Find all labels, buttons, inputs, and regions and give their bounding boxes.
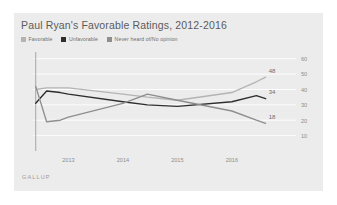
x-axis-tick-label: 2015 <box>171 157 183 163</box>
y-axis-tick-label: 60 <box>301 56 307 62</box>
series-end-value-label: 18 <box>269 114 276 120</box>
x-axis-tick-label: 2013 <box>62 157 74 163</box>
legend-item-unfavorable[interactable]: Unfavorable <box>61 36 98 42</box>
chart-title: Paul Ryan's Favorable Ratings, 2012-2016 <box>21 19 227 31</box>
legend-item-never-heard-of[interactable]: Never heard of/No opinion <box>107 36 178 42</box>
y-axis-tick-label: 30 <box>301 102 307 108</box>
page-top-text-fragment <box>14 1 164 10</box>
x-axis-tick-label: 2016 <box>226 157 238 163</box>
legend-item-favorable[interactable]: Favorable <box>21 36 52 42</box>
y-axis-tick-label: 50 <box>301 71 307 77</box>
legend-swatch-icon <box>61 37 66 42</box>
y-axis-tick-label: 20 <box>301 118 307 124</box>
series-line <box>36 77 266 100</box>
chart-source-attribution: GALLUP <box>22 174 51 180</box>
chart-card: Paul Ryan's Favorable Ratings, 2012-2016… <box>14 13 323 191</box>
legend-swatch-icon <box>107 37 112 42</box>
line-chart-svg: 1020304050602013201420152016483418 <box>21 47 316 165</box>
x-axis-tick-label: 2014 <box>117 157 129 163</box>
chart-plot-area: 1020304050602013201420152016483418 <box>21 47 316 165</box>
legend-label: Unfavorable <box>69 36 98 42</box>
legend-label: Never heard of/No opinion <box>115 36 178 42</box>
legend-swatch-icon <box>21 37 26 42</box>
y-axis-tick-label: 40 <box>301 87 307 93</box>
legend-label: Favorable <box>29 36 53 42</box>
chart-legend: Favorable Unfavorable Never heard of/No … <box>21 36 178 42</box>
y-axis-tick-label: 10 <box>301 133 307 139</box>
series-end-value-label: 34 <box>269 89 276 95</box>
series-end-value-label: 48 <box>269 68 276 74</box>
